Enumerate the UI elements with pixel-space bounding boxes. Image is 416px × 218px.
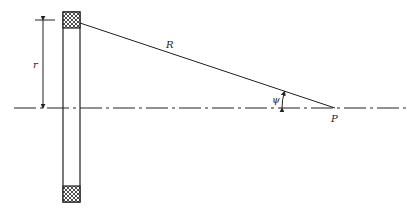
angle-label: ψ: [272, 94, 280, 105]
radius-dimension: r: [33, 20, 55, 108]
distance-line: [80, 23, 335, 108]
bottom-conductor-hatch: [63, 186, 80, 202]
angle-marker: ψ: [272, 92, 285, 109]
top-conductor-hatch: [63, 12, 80, 28]
radius-label: r: [33, 59, 39, 70]
ring-coil: [63, 12, 80, 202]
ring-field-diagram: r R ψ P: [0, 0, 416, 218]
distance-label: R: [165, 39, 174, 50]
point-label: P: [330, 113, 338, 124]
